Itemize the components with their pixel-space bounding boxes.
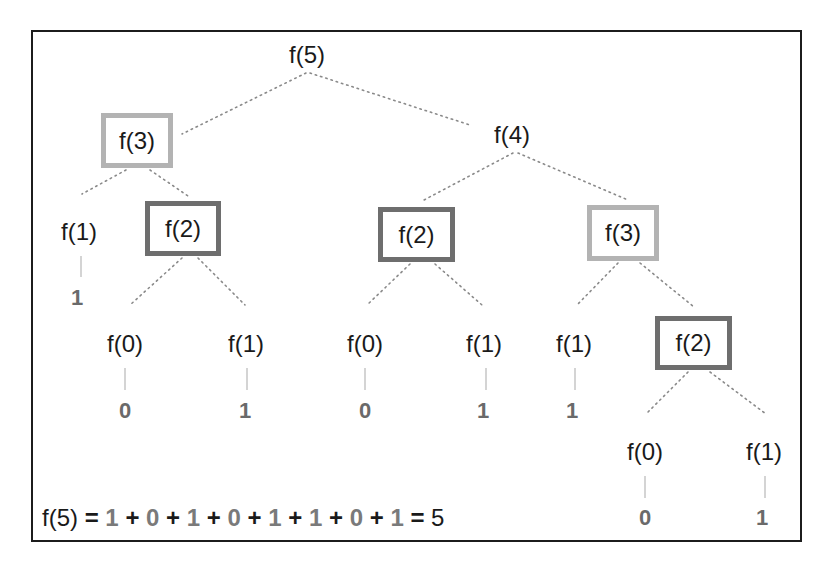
edge-f2c-f0	[646, 372, 688, 414]
equation-equals: =	[410, 504, 424, 531]
leaf-value: 0	[119, 400, 131, 422]
equation-lhs: f(5)	[42, 504, 78, 531]
equation-term: 1	[309, 504, 322, 531]
equation-equals: =	[85, 504, 99, 531]
node-f2-label: f(2)	[165, 217, 201, 241]
equation-plus: +	[248, 504, 262, 531]
node-f2-repeated-box: f(2)	[145, 201, 221, 256]
node-f1: f(1)	[466, 332, 502, 356]
equation-term: 1	[390, 504, 403, 531]
equation-term: 0	[350, 504, 363, 531]
node-f5-root: f(5)	[289, 43, 325, 67]
node-f3-label: f(3)	[605, 221, 641, 245]
sum-equation: f(5) = 1 + 0 + 1 + 0 + 1 + 1 + 0 + 1 = 5	[42, 506, 444, 530]
leaf-value: 0	[639, 507, 651, 529]
edge-f2b-f1	[435, 264, 482, 305]
leaf-value: 1	[477, 400, 489, 422]
equation-plus: +	[329, 504, 343, 531]
leaf-value: 0	[359, 400, 371, 422]
node-f2-repeated-box: f(2)	[655, 316, 732, 370]
node-f0: f(0)	[107, 332, 143, 356]
node-f1: f(1)	[556, 332, 592, 356]
node-f3-label: f(3)	[119, 129, 155, 153]
equation-term: 1	[268, 504, 281, 531]
equation-term: 0	[146, 504, 159, 531]
node-f3-repeated-box: f(3)	[101, 113, 173, 168]
edge-f3-f2	[150, 170, 188, 196]
node-f2-repeated-box: f(2)	[378, 207, 455, 262]
node-f0: f(0)	[347, 332, 383, 356]
equation-plus: +	[207, 504, 221, 531]
leaf-value: 1	[566, 400, 578, 422]
leaf-value: 1	[239, 400, 251, 422]
edge-f5-f3	[182, 73, 306, 134]
tree-edges	[0, 0, 829, 571]
edge-f4-f3	[518, 153, 628, 200]
equation-term: 1	[105, 504, 118, 531]
node-f1: f(1)	[228, 332, 264, 356]
node-f3-repeated-box: f(3)	[587, 205, 659, 261]
node-f2-label: f(2)	[399, 223, 435, 247]
edge-f2a-f0	[130, 258, 182, 305]
equation-plus: +	[370, 504, 384, 531]
equation-plus: +	[166, 504, 180, 531]
node-f4: f(4)	[494, 123, 530, 147]
leaf-value: 1	[756, 507, 768, 529]
equation-plus: +	[288, 504, 302, 531]
equation-term: 1	[187, 504, 200, 531]
node-f1: f(1)	[61, 220, 97, 244]
edge-f2c-f1	[710, 372, 766, 414]
equation-term: 0	[228, 504, 241, 531]
edge-f2b-f0	[367, 264, 410, 305]
node-f1: f(1)	[746, 440, 782, 464]
equation-result: 5	[431, 504, 444, 531]
leaf-value: 1	[71, 287, 83, 309]
edge-f3b-f2	[640, 263, 694, 307]
node-f0: f(0)	[627, 440, 663, 464]
node-f2-label: f(2)	[676, 331, 712, 355]
equation-plus: +	[125, 504, 139, 531]
edge-f5-f4	[310, 73, 470, 125]
edge-f3b-f1	[577, 263, 618, 305]
edge-f3-f1	[82, 170, 126, 194]
edge-f2a-f1	[198, 258, 245, 305]
edge-f4-f2	[424, 153, 513, 200]
